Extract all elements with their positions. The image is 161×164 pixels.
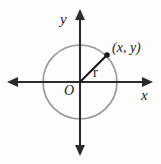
y-axis-label: y (60, 12, 67, 27)
x-axis-label: x (141, 88, 148, 103)
x-axis-left-arrowhead (7, 77, 18, 87)
math-figure-coordinate-circle: y x O r (x, y) (0, 0, 161, 164)
point-coordinates-label: (x, y) (112, 41, 141, 55)
radius-label: r (93, 66, 98, 80)
point-marker (104, 52, 110, 58)
y-axis-bottom-arrowhead (75, 145, 85, 156)
x-axis-right-arrowhead (142, 77, 153, 87)
origin-label: O (64, 84, 74, 98)
y-axis-top-arrowhead (75, 9, 85, 20)
figure-canvas (0, 0, 161, 164)
